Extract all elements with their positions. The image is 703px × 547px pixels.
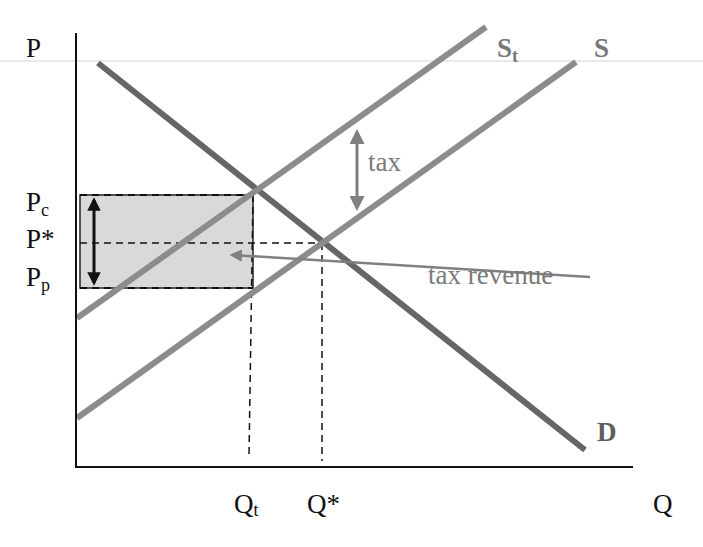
pp-label-main: P: [26, 262, 41, 292]
y-axis-label: P: [26, 33, 41, 63]
taxed-supply-label: St: [497, 33, 518, 66]
qt-label: Qt: [234, 489, 259, 520]
supply-label: S: [594, 33, 609, 63]
x-axis-label: Q: [653, 489, 673, 519]
pc-label-sub: c: [41, 200, 49, 220]
taxed-supply-label-main: S: [497, 33, 512, 63]
pp-label-sub: p: [41, 275, 50, 295]
taxed-supply-label-sub: t: [512, 46, 518, 66]
qstar-label: Q*: [307, 489, 340, 519]
pc-label-main: P: [26, 187, 41, 217]
demand-label: D: [597, 417, 617, 447]
qt-label-sub: t: [254, 500, 259, 520]
tax-revenue-annotation: tax revenue: [428, 260, 553, 290]
qt-label-main: Q: [234, 489, 254, 519]
tax-annotation: tax: [368, 147, 401, 177]
pp-label: Pp: [26, 262, 50, 295]
pstar-label: P*: [26, 224, 55, 254]
pc-label: Pc: [26, 187, 49, 220]
tax-incidence-diagram: P Q Pc P* Pp Qt Q* St S D tax tax revenu…: [0, 0, 703, 547]
